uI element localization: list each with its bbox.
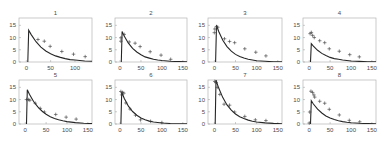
panel-title: 7 (243, 72, 247, 78)
y-tick-label: 5 (297, 47, 301, 53)
axes-box (208, 18, 282, 62)
y-tick-label: 10 (9, 35, 16, 41)
y-tick-label: 10 (105, 97, 112, 103)
panel-title: 6 (149, 72, 153, 78)
y-tick-label: 10 (9, 97, 16, 103)
x-tick-label: 0 (118, 127, 122, 133)
y-tick-label: 15 (9, 84, 16, 90)
x-tick-label: 100 (70, 65, 81, 71)
x-tick-label: 150 (367, 127, 378, 133)
panel-8: 8051015050100150 (293, 72, 377, 133)
y-tick-label: 0 (109, 121, 113, 127)
y-tick-label: 5 (109, 109, 113, 115)
axes-box (303, 80, 376, 124)
y-tick-label: 15 (105, 22, 112, 28)
y-tick-label: 5 (13, 47, 17, 53)
x-tick-label: 150 (83, 127, 94, 133)
x-tick-label: 50 (47, 65, 54, 71)
x-tick-label: 50 (327, 65, 334, 71)
y-tick-label: 0 (202, 59, 206, 65)
y-tick-label: 0 (13, 121, 17, 127)
x-tick-label: 150 (178, 65, 189, 71)
x-tick-label: 150 (367, 65, 378, 71)
x-tick-label: 50 (138, 127, 145, 133)
y-tick-label: 15 (293, 84, 300, 90)
x-tick-label: 50 (43, 127, 50, 133)
axes-box (115, 18, 187, 62)
panel-title: 8 (338, 72, 342, 78)
x-tick-label: 150 (178, 127, 189, 133)
x-tick-label: 100 (346, 127, 357, 133)
y-tick-label: 15 (9, 22, 16, 28)
small-multiples-plot: 1051015050100205101505010015030510150501… (0, 0, 387, 144)
x-tick-label: 0 (308, 127, 312, 133)
panel-5: 5051015050100150 (9, 72, 93, 133)
y-tick-label: 15 (198, 84, 205, 90)
panel-4: 4051015050100150 (293, 10, 377, 71)
x-tick-label: 50 (232, 127, 239, 133)
panel-title: 4 (338, 10, 342, 16)
y-tick-label: 0 (297, 59, 301, 65)
x-tick-label: 0 (24, 127, 28, 133)
y-tick-label: 0 (13, 59, 17, 65)
panel-title: 5 (54, 72, 58, 78)
y-tick-label: 10 (198, 35, 205, 41)
y-tick-label: 5 (202, 109, 206, 115)
x-tick-label: 100 (62, 127, 73, 133)
y-tick-label: 5 (202, 47, 206, 53)
y-tick-label: 0 (202, 121, 206, 127)
y-tick-label: 0 (109, 59, 113, 65)
y-tick-label: 5 (13, 109, 17, 115)
x-tick-label: 100 (252, 127, 263, 133)
y-tick-label: 5 (297, 109, 301, 115)
panel-2: 2051015050100150 (105, 10, 188, 71)
y-tick-label: 0 (297, 121, 301, 127)
y-tick-label: 10 (293, 97, 300, 103)
axes-box (303, 18, 376, 62)
x-tick-label: 0 (308, 65, 312, 71)
x-tick-label: 0 (25, 65, 29, 71)
x-tick-label: 100 (157, 65, 168, 71)
y-tick-label: 15 (293, 22, 300, 28)
y-tick-label: 15 (198, 22, 205, 28)
y-tick-label: 5 (109, 47, 113, 53)
x-tick-label: 100 (157, 127, 168, 133)
panel-1: 1051015050100 (9, 10, 92, 71)
x-tick-label: 50 (232, 65, 239, 71)
x-tick-label: 100 (252, 65, 263, 71)
y-tick-label: 10 (105, 35, 112, 41)
x-tick-label: 0 (213, 127, 217, 133)
panel-7: 7051015050100150 (198, 72, 283, 133)
panel-3: 3051015050100150 (198, 10, 283, 71)
y-tick-label: 15 (105, 84, 112, 90)
x-tick-label: 0 (118, 65, 122, 71)
x-tick-label: 50 (138, 65, 145, 71)
x-tick-label: 100 (346, 65, 357, 71)
figure: 1051015050100205101505010015030510150501… (0, 0, 387, 144)
x-tick-label: 0 (213, 65, 217, 71)
panel-title: 2 (149, 10, 153, 16)
panel-title: 3 (243, 10, 247, 16)
y-tick-label: 10 (198, 97, 205, 103)
x-tick-label: 50 (327, 127, 334, 133)
y-tick-label: 10 (293, 35, 300, 41)
panel-6: 6051015050100150 (105, 72, 188, 133)
panel-title: 1 (54, 10, 58, 16)
x-tick-label: 150 (273, 65, 284, 71)
x-tick-label: 150 (273, 127, 284, 133)
